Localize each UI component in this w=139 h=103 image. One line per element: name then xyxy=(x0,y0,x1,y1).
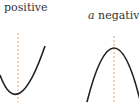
parabola-downward xyxy=(87,48,139,102)
parabola-diagram xyxy=(0,0,139,103)
parabola-upward xyxy=(0,46,45,94)
